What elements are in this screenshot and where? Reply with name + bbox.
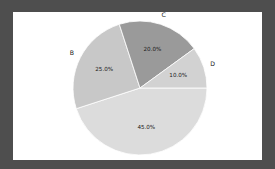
pie-category-label-c: C (161, 12, 165, 18)
pie-category-label-d: D (210, 60, 215, 67)
pie-percent-label-a: 45.0% (137, 124, 155, 130)
chart-panel: 45.0%25.0%20.0%10.0% ABCD (13, 12, 262, 160)
pie-wedge-group (73, 21, 207, 155)
pie-percent-label-c: 20.0% (144, 46, 162, 52)
pie-category-label-b: B (70, 49, 74, 56)
pie-percent-label-b: 25.0% (95, 66, 113, 72)
pie-category-label-a: A (150, 159, 155, 160)
pie-chart-plot-area: 45.0%25.0%20.0%10.0% ABCD (13, 12, 262, 160)
pie-chart-svg: 45.0%25.0%20.0%10.0% ABCD (13, 12, 262, 160)
pie-percent-label-d: 10.0% (169, 72, 187, 78)
figure-frame: 45.0%25.0%20.0%10.0% ABCD (0, 0, 275, 169)
